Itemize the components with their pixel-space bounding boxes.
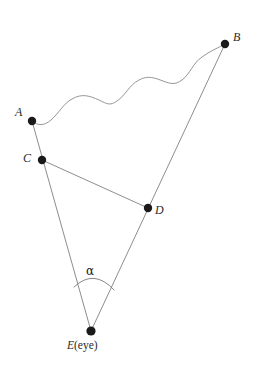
point-b-label: B bbox=[233, 31, 240, 43]
point-c-dot bbox=[38, 156, 46, 164]
point-a-label: A bbox=[15, 106, 22, 118]
diagram-canvas bbox=[0, 0, 273, 383]
angle-alpha-label: α bbox=[86, 265, 94, 277]
point-d-dot bbox=[144, 204, 152, 212]
segment-c-d bbox=[42, 160, 148, 208]
point-c-label: C bbox=[23, 152, 31, 164]
point-e-annotation: (eye) bbox=[74, 339, 98, 351]
wavy-curve-a-b bbox=[32, 44, 225, 125]
segment-a-e bbox=[32, 121, 91, 331]
point-e-dot bbox=[86, 326, 95, 335]
segment-b-e bbox=[91, 44, 225, 331]
geometry-diagram: A B C D E(eye) α bbox=[0, 0, 273, 383]
point-d-label: D bbox=[155, 204, 164, 216]
point-b-dot bbox=[221, 40, 229, 48]
angle-arc-alpha bbox=[74, 278, 114, 290]
point-a-dot bbox=[28, 117, 36, 125]
point-e-eye-label: E(eye) bbox=[67, 340, 98, 352]
point-e-symbol: E bbox=[67, 339, 74, 351]
